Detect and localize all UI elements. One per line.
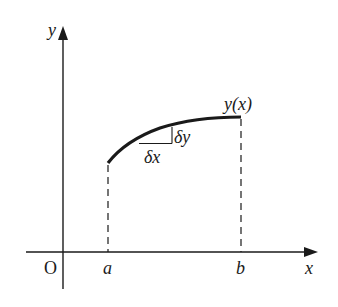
origin-label: O <box>44 258 57 278</box>
y-axis-label: y <box>46 20 56 40</box>
x-axis-arrow-icon <box>304 247 318 257</box>
diagram-svg: y x O a b y(x) δy δx <box>0 0 338 307</box>
point-a-label: a <box>103 258 112 278</box>
y-axis-arrow-icon <box>58 26 68 40</box>
dy-label: δy <box>174 127 190 147</box>
curve-label: y(x) <box>222 94 252 115</box>
diagram-canvas: y x O a b y(x) δy δx <box>0 0 338 307</box>
dx-label: δx <box>144 147 160 167</box>
point-b-label: b <box>236 258 245 278</box>
x-axis-label: x <box>304 258 313 278</box>
